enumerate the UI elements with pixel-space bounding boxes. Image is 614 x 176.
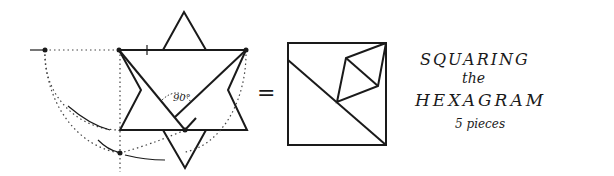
hexagram-figure bbox=[0, 0, 614, 176]
title-line-2: the bbox=[462, 70, 485, 86]
equals-sign: = bbox=[257, 80, 275, 105]
angle-label: 90° bbox=[173, 92, 191, 103]
square-figure bbox=[288, 43, 386, 145]
title-line-1: SQUARING bbox=[420, 50, 530, 69]
title-line-3: HEXAGRAM bbox=[415, 90, 546, 110]
subtitle: 5 pieces bbox=[455, 117, 505, 131]
